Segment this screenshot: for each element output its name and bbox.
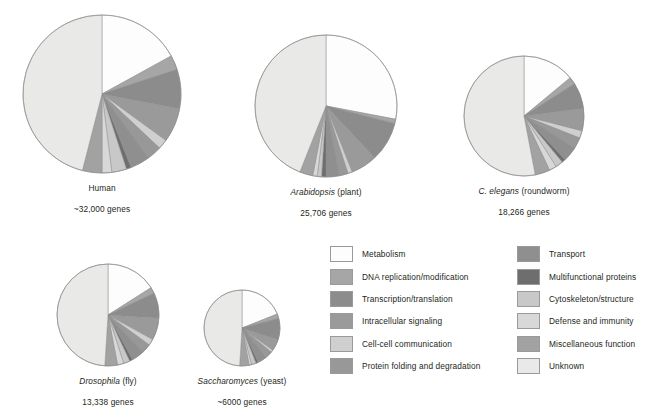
legend-swatch xyxy=(330,269,353,285)
legend-item: Unknown xyxy=(517,355,636,377)
legend-swatch xyxy=(517,336,540,352)
legend-item: Intracellular signaling xyxy=(330,310,480,332)
common-name-arabidopsis: (plant) xyxy=(337,187,361,197)
pie-caption-celegans: C. elegans (roundworm) xyxy=(434,186,614,196)
legend-label: Cytoskeleton/structure xyxy=(549,294,634,304)
species-name-celegans: C. elegans xyxy=(478,186,519,196)
legend-item: Metabolism xyxy=(330,243,480,265)
common-name-saccharomyces: (yeast) xyxy=(260,376,286,386)
pie-svg-c-elegans xyxy=(463,55,585,177)
gene-function-pie-figure: Human ~32,000 genes Arabidopsis (plant) … xyxy=(0,0,668,419)
legend-label: Transcription/translation xyxy=(362,294,453,304)
pie-caption-arabidopsis: Arabidopsis (plant) xyxy=(236,187,416,197)
legend-label: Intracellular signaling xyxy=(362,316,442,326)
legend-item: Protein folding and degradation xyxy=(330,355,480,377)
legend-label: Metabolism xyxy=(362,249,405,259)
pie-svg-drosophila xyxy=(56,263,160,367)
pie-chart-drosophila xyxy=(56,263,160,367)
legend-column-left: MetabolismDNA replication/modificationTr… xyxy=(330,243,480,377)
legend-swatch xyxy=(330,336,353,352)
pie-chart-celegans xyxy=(463,55,585,177)
pie-slice xyxy=(57,264,108,366)
legend-item: DNA replication/modification xyxy=(330,265,480,287)
species-name-arabidopsis: Arabidopsis xyxy=(290,187,334,197)
pie-svg-saccharomyces xyxy=(203,289,281,367)
legend-label: Cell-cell communication xyxy=(362,339,452,349)
legend-label: Transport xyxy=(549,249,585,259)
legend-swatch xyxy=(330,313,353,329)
legend-swatch xyxy=(517,246,540,262)
legend-swatch xyxy=(330,291,353,307)
legend-item: Multifunctional proteins xyxy=(517,265,636,287)
legend-label: DNA replication/modification xyxy=(362,272,469,282)
legend-label: Miscellaneous function xyxy=(549,339,635,349)
legend-item: Transport xyxy=(517,243,636,265)
pie-caption-human: Human xyxy=(12,183,192,193)
legend-item: Cytoskeleton/structure xyxy=(517,288,636,310)
pie-unit-saccharomyces: Saccharomyces (yeast) ~6000 genes xyxy=(152,289,332,407)
legend-label: Protein folding and degradation xyxy=(362,361,480,371)
common-name-drosophila: (fly) xyxy=(122,376,136,386)
common-name-celegans: (roundworm) xyxy=(521,186,569,196)
pie-caption-saccharomyces: Saccharomyces (yeast) xyxy=(152,376,332,386)
legend-swatch xyxy=(330,246,353,262)
common-name-human: Human xyxy=(88,183,115,193)
pie-svg-arabidopsis xyxy=(254,34,398,178)
legend-swatch xyxy=(517,291,540,307)
pie-svg-human xyxy=(22,14,182,174)
legend-label: Unknown xyxy=(549,361,584,371)
species-name-saccharomyces: Saccharomyces xyxy=(198,376,258,386)
pie-unit-human: Human ~32,000 genes xyxy=(12,14,192,214)
pie-chart-arabidopsis xyxy=(254,34,398,178)
pie-slice xyxy=(204,290,242,366)
legend-swatch xyxy=(330,358,353,374)
legend-item: Miscellaneous function xyxy=(517,333,636,355)
gene-count-saccharomyces: ~6000 genes xyxy=(152,397,332,407)
pie-chart-human xyxy=(22,14,182,174)
legend-item: Transcription/translation xyxy=(330,288,480,310)
legend-item: Defense and immunity xyxy=(517,310,636,332)
legend-label: Multifunctional proteins xyxy=(549,272,636,282)
legend-item: Cell-cell communication xyxy=(330,333,480,355)
gene-count-human: ~32,000 genes xyxy=(12,204,192,214)
pie-unit-celegans: C. elegans (roundworm) 18,266 genes xyxy=(434,55,614,217)
legend-label: Defense and immunity xyxy=(549,316,634,326)
legend-swatch xyxy=(517,313,540,329)
legend-column-right: TransportMultifunctional proteinsCytoske… xyxy=(517,243,636,377)
gene-count-celegans: 18,266 genes xyxy=(434,207,614,217)
gene-count-arabidopsis: 25,706 genes xyxy=(236,208,416,218)
pie-unit-arabidopsis: Arabidopsis (plant) 25,706 genes xyxy=(236,34,416,218)
pie-slice xyxy=(326,35,397,119)
pie-chart-saccharomyces xyxy=(203,289,281,367)
legend-swatch xyxy=(517,358,540,374)
species-name-drosophila: Drosophila xyxy=(79,376,120,386)
legend-swatch xyxy=(517,269,540,285)
